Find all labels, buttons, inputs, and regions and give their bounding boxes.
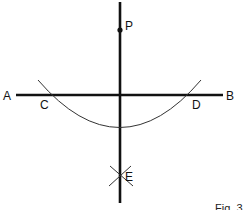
label-a: A <box>3 89 11 103</box>
point-p-dot <box>117 27 122 32</box>
label-b: B <box>226 89 234 103</box>
label-p: P <box>125 19 133 33</box>
label-e: E <box>125 170 133 184</box>
figure-caption: Fig. 3 <box>215 202 243 210</box>
perpendicular-construction-diagram: P A B C D E Fig. 3 <box>0 0 243 210</box>
label-d: D <box>192 98 201 112</box>
label-c: C <box>40 98 49 112</box>
